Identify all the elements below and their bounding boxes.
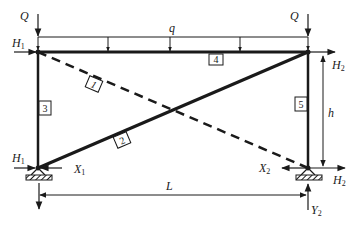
q-label: q <box>169 21 175 35</box>
Q-right-label: Q <box>290 9 299 23</box>
joint-top-left <box>36 50 41 55</box>
svg-text:5: 5 <box>299 99 304 110</box>
support-left <box>26 168 52 180</box>
H1-top-label: H1 <box>11 36 25 51</box>
structure-diagram: q Q Q H1 H2 h H1 X1 X2 H2 Y2 L 1 2 3 4 <box>0 0 361 226</box>
member-label-5: 5 <box>295 97 307 111</box>
member-label-3: 3 <box>39 101 51 115</box>
X1-label: X1 <box>73 162 85 177</box>
svg-text:4: 4 <box>214 54 219 65</box>
Y2-label: Y2 <box>311 203 322 218</box>
X2-label: X2 <box>258 161 270 176</box>
L-label: L <box>165 179 173 193</box>
H2-bottom-label: H2 <box>332 173 346 188</box>
H1-bottom-label: H1 <box>11 151 25 166</box>
H2-top-label: H2 <box>331 58 345 73</box>
h-label: h <box>328 106 334 120</box>
Q-left-label: Q <box>20 9 29 23</box>
joint-top-right <box>306 50 311 55</box>
svg-text:3: 3 <box>43 103 48 114</box>
members <box>38 52 308 168</box>
support-right <box>296 168 322 180</box>
member-label-4: 4 <box>209 54 223 65</box>
distributed-load <box>38 37 308 51</box>
